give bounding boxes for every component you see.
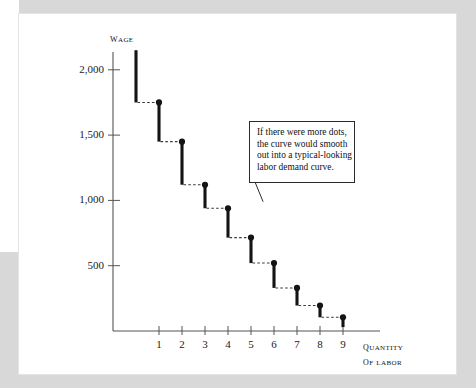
callout-text-line: If there were more dots, (257, 127, 347, 139)
page-left-notch (0, 0, 19, 252)
y-axis-title: Wage (110, 33, 134, 45)
data-point-dot (156, 99, 162, 105)
callout-leader-line (255, 182, 263, 202)
x-axis-title-line1: Quantity (363, 341, 403, 353)
figure-panel: Wage Quantity of Labor 5001,0001,5002,00… (19, 14, 456, 374)
x-axis-tick-label: 3 (195, 339, 215, 350)
x-axis-tick-label: 5 (241, 339, 261, 350)
callout-leader (255, 182, 263, 202)
x-axis-tick-label: 2 (172, 339, 192, 350)
step-bars (136, 50, 343, 327)
data-point-dot (340, 314, 346, 320)
data-point-dot (294, 285, 300, 291)
x-axis-tick-label: 8 (310, 339, 330, 350)
x-axis-tick-label: 7 (287, 339, 307, 350)
page-background: Wage Quantity of Labor 5001,0001,5002,00… (0, 0, 476, 388)
callout-text-line: the curve would smooth (257, 139, 347, 151)
data-point-dot (225, 205, 231, 211)
data-point-dot (202, 182, 208, 188)
callout-text-line: out into a typical-looking (257, 150, 347, 162)
y-axis-tick-label: 1,000 (79, 194, 104, 205)
axis-lines (108, 52, 380, 335)
data-point-dot (248, 235, 254, 241)
x-axis-tick-label: 6 (264, 339, 284, 350)
y-axis-tick-label: 2,000 (79, 64, 104, 75)
labor-demand-chart: Wage Quantity of Labor 5001,0001,5002,00… (19, 14, 456, 374)
annotation-callout-box: If there were more dots, the curve would… (249, 121, 355, 183)
data-point-dot (271, 260, 277, 266)
y-axis-tick-label: 1,500 (79, 129, 104, 140)
y-axis-tick-label: 500 (88, 260, 105, 271)
data-point-dot (317, 302, 323, 308)
x-axis-tick-label: 1 (149, 339, 169, 350)
x-axis-tick-label: 9 (333, 339, 353, 350)
x-axis-title-line2: of Labor (363, 356, 402, 368)
callout-text-line: labor demand curve. (257, 162, 347, 174)
x-axis-tick-label: 4 (218, 339, 238, 350)
data-point-dot (179, 139, 185, 145)
